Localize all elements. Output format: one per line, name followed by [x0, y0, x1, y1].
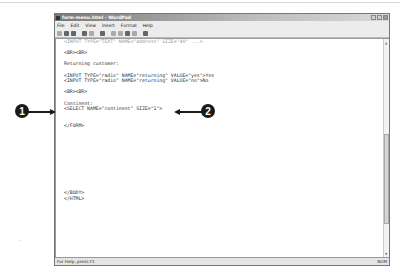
- save-icon[interactable]: [71, 31, 76, 36]
- code-line: <INPUT TYPE="TEXT" NAME="address" SIZE="…: [64, 39, 214, 45]
- callout-1-arrowhead-icon: [50, 109, 56, 115]
- callout-2: 2: [201, 104, 215, 118]
- find-icon[interactable]: [100, 31, 105, 36]
- code-line: <INPUT TYPE="radio" NAME="returning" VAL…: [64, 78, 214, 84]
- menu-view[interactable]: View: [85, 23, 96, 28]
- window-controls: [371, 15, 388, 20]
- toolbar: [55, 29, 389, 38]
- callout-2-arrow: [180, 111, 202, 113]
- wordpad-window: form-menu.html - WordPad File Edit View …: [54, 13, 390, 266]
- vertical-scrollbar[interactable]: ▲ ▼: [383, 39, 389, 257]
- date-time-icon[interactable]: [143, 31, 148, 36]
- undo-icon[interactable]: [132, 31, 137, 36]
- copy-icon[interactable]: [118, 31, 123, 36]
- callout-2-arrowhead-icon: [174, 109, 180, 115]
- menu-help[interactable]: Help: [143, 23, 153, 28]
- code-line: </HTML>: [64, 196, 214, 202]
- status-help-text: For Help, press F1: [57, 259, 95, 264]
- callout-1-arrow: [28, 111, 50, 113]
- scroll-up-icon[interactable]: ▲: [385, 41, 388, 44]
- scroll-thumb[interactable]: [384, 134, 389, 224]
- title-bar[interactable]: form-menu.html - WordPad: [55, 14, 389, 21]
- stray-mark: [20, 240, 21, 241]
- print-preview-icon[interactable]: [89, 31, 94, 36]
- menu-edit[interactable]: Edit: [71, 23, 80, 28]
- page-top-rule: [0, 2, 400, 3]
- menu-bar: File Edit View Insert Format Help: [55, 22, 389, 29]
- open-icon[interactable]: [64, 31, 69, 36]
- new-icon[interactable]: [57, 31, 62, 36]
- cut-icon[interactable]: [111, 31, 116, 36]
- status-bar: For Help, press F1 NUM: [55, 257, 389, 265]
- minimize-button[interactable]: [371, 15, 376, 20]
- paste-icon[interactable]: [125, 31, 130, 36]
- maximize-button[interactable]: [377, 15, 382, 20]
- num-lock-indicator: NUM: [377, 259, 387, 264]
- menu-insert[interactable]: Insert: [102, 23, 115, 28]
- wordpad-app-icon[interactable]: [56, 16, 60, 20]
- print-icon[interactable]: [82, 31, 87, 36]
- document-editor[interactable]: <INPUT TYPE="TEXT" NAME="address" SIZE="…: [55, 38, 389, 257]
- scroll-down-icon[interactable]: ▼: [385, 252, 388, 255]
- menu-file[interactable]: File: [57, 23, 65, 28]
- callout-1: 1: [15, 104, 29, 118]
- menu-format[interactable]: Format: [121, 23, 137, 28]
- close-button[interactable]: [383, 15, 388, 20]
- window-title: form-menu.html - WordPad: [62, 15, 131, 20]
- document-text: <INPUT TYPE="TEXT" NAME="address" SIZE="…: [64, 39, 214, 201]
